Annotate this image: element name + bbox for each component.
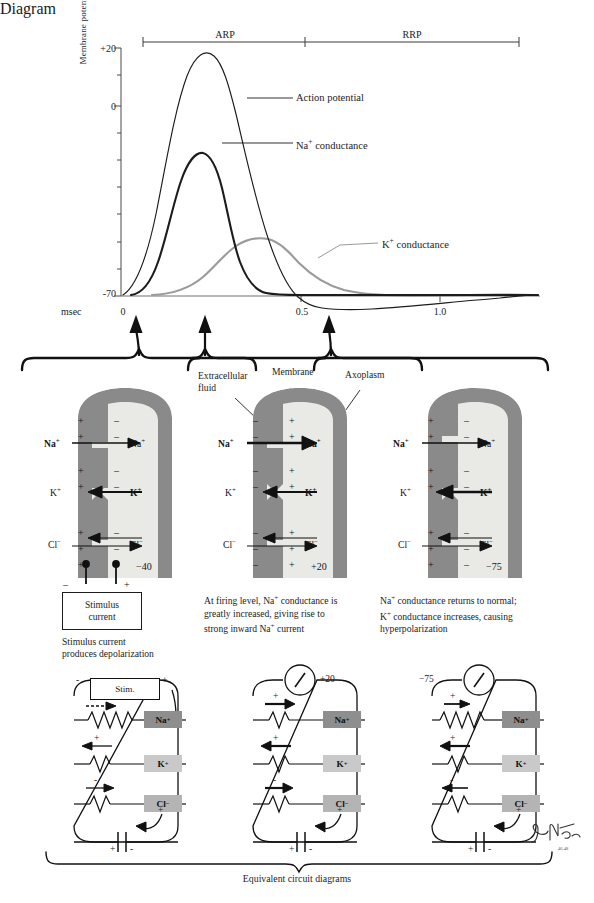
ion-right-k-1: K+ [130, 486, 141, 498]
circuit3-na-box: Na+ [502, 711, 540, 728]
ion-left-na-2: Na+ [218, 437, 234, 449]
circuit1-na-box: Na+ [144, 711, 182, 728]
circuit3-k-box: K+ [502, 755, 540, 772]
circuit1-sign-cl: - [94, 776, 97, 786]
sign-inside-3f: – [464, 544, 469, 554]
sign-inside-1c: – [114, 466, 119, 476]
caption-panel-2: At firing level, Na+ conductance isgreat… [204, 592, 337, 636]
circuit2-na-box: Na+ [323, 711, 361, 728]
stimulus-line-2: current [88, 611, 115, 623]
ion-left-na-3: Na+ [393, 437, 409, 449]
sign-inside-3b: – [464, 432, 469, 442]
curve-na-conductance [131, 153, 538, 295]
sign-outside-3f: + [428, 544, 434, 554]
ion-right-cl-2: Cl− [305, 538, 318, 550]
sign-outside-2c: – [253, 466, 258, 476]
sign-lead-pos-1: + [124, 580, 130, 590]
sign-outside-3e: + [428, 528, 434, 538]
sign-outside-2d: – [253, 482, 258, 492]
ion-left-k-3: K+ [400, 486, 411, 498]
circuit-2 [225, 676, 385, 851]
sign-inside-1a: – [114, 416, 119, 426]
circuit1-sign-inner: + [158, 806, 163, 816]
sign-outside-3c: + [428, 466, 434, 476]
curve-k-conductance [152, 238, 538, 296]
sign-inside-1g: – [114, 560, 119, 570]
label-na-conductance: Na+ conductance [296, 137, 368, 151]
circuit3-sign-k: + [450, 734, 455, 744]
sign-outside-1b: + [78, 432, 84, 442]
ion-right-na-3: Na+ [480, 437, 495, 449]
circuit-diagram-2 [225, 676, 385, 851]
circuit2-sign-k: + [273, 734, 278, 744]
circuit1-k-box: K+ [144, 755, 182, 772]
sign-inside-3d: – [464, 482, 469, 492]
circuit2-k-box: K+ [323, 755, 361, 772]
ion-right-na-1: Na+ [130, 437, 145, 449]
sign-outside-2e: – [253, 528, 258, 538]
sign-inside-2f: + [289, 544, 295, 554]
sign-outside-1g: + [78, 560, 84, 570]
sign-inside-2a: + [289, 416, 295, 426]
sign-outside-2g: – [253, 560, 258, 570]
sign-inside-3a: – [464, 416, 469, 426]
circuit1-sign-topleft: - [76, 676, 79, 686]
action-potential-graph: ARP RRP Membrane potential (mV) +20 0 -7… [0, 0, 594, 330]
sign-inside-2g: + [289, 560, 295, 570]
circuit3-sign-na: + [450, 692, 455, 702]
ion-right-k-2: K+ [305, 486, 316, 498]
sign-outside-1e: + [78, 528, 84, 538]
stimulus-current-box: Stimulus current [62, 592, 142, 630]
ion-left-k-1: K+ [50, 486, 61, 498]
label-action-potential: Action potential [296, 92, 364, 103]
sign-inside-3c: – [464, 466, 469, 476]
figure-page: ARP RRP Membrane potential (mV) +20 0 -7… [0, 0, 594, 903]
voltage-panel-3: −75 [486, 561, 502, 572]
sign-outside-3b: + [428, 432, 434, 442]
ion-right-na-2: Na+ [305, 437, 321, 449]
sign-inside-2c: + [289, 466, 295, 476]
sign-inside-2e: + [289, 528, 295, 538]
ion-right-cl-3: Cl− [480, 538, 493, 550]
stimulus-line-1: Stimulus [85, 599, 119, 611]
ion-left-cl-1: Cl− [48, 538, 61, 550]
circuit2-sign-inner: + [337, 806, 342, 816]
circuit2-sign-na: + [273, 692, 278, 702]
sign-outside-3a: + [428, 416, 434, 426]
sign-inside-1d: – [114, 482, 119, 492]
circuit3-sign-inner: + [516, 806, 521, 816]
sign-inside-1f: – [114, 544, 119, 554]
circuit2-meter-value: +20 [320, 674, 335, 684]
sign-outside-3g: + [428, 560, 434, 570]
sign-outside-3d: + [428, 482, 434, 492]
sign-inside-1e: – [114, 528, 119, 538]
timepoint-braces [0, 312, 594, 372]
circuit-1 [46, 676, 206, 851]
sign-lead-neg-1: – [63, 580, 68, 590]
voltage-panel-2: +20 [311, 561, 327, 572]
sign-outside-2b: – [253, 432, 258, 442]
circuit-diagram-1 [46, 676, 206, 851]
sign-outside-1f: + [78, 544, 84, 554]
sign-outside-2f: – [253, 544, 258, 554]
voltage-panel-1: −40 [136, 561, 152, 572]
ion-left-na-1: Na+ [44, 437, 60, 449]
ion-right-cl-1: Cl− [130, 538, 143, 550]
sign-inside-2b: + [289, 432, 295, 442]
stimulator-box[interactable]: Stim. [90, 678, 160, 700]
artist-signature: 46.48 [528, 818, 586, 852]
sign-outside-1a: + [78, 416, 84, 426]
ion-left-k-2: K+ [225, 486, 236, 498]
circuit1-sign-k: + [94, 734, 99, 744]
sign-outside-1d: + [78, 482, 84, 492]
graph-plot-area [0, 0, 594, 330]
circuit3-meter-value: −75 [419, 674, 434, 684]
sign-inside-1b: – [114, 432, 119, 442]
ion-left-cl-3: Cl− [398, 538, 411, 550]
circuit1-sign-topright: + [162, 676, 167, 686]
caption-panel-3: Na+ conductance returns to normal;K+ con… [380, 592, 517, 636]
circuit2-sign-cl: - [273, 776, 276, 786]
caption-panel-1: Stimulus currentproduces depolarization [62, 636, 154, 661]
bottom-brace [0, 848, 594, 874]
sign-inside-3e: – [464, 528, 469, 538]
